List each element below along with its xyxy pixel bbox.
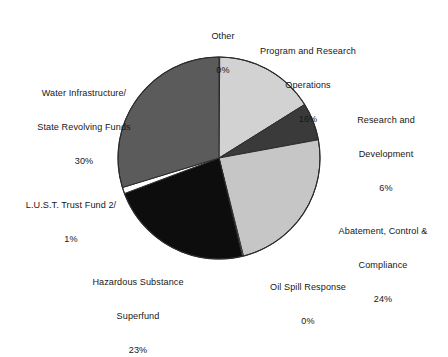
slice-label-oil-line1: Oil Spill Response [248, 282, 368, 293]
slice-label-water-line2: State Revolving Funds [10, 122, 158, 133]
slice-label-hazardous-substance-superfund: Hazardous Substance Superfund 23% [58, 255, 218, 357]
slice-label-oil-spill-response: Oil Spill Response 0% [248, 260, 368, 350]
slice-label-water-infrastructure-state-revolving-funds: Water Infrastructure/ State Revolving Fu… [10, 66, 158, 189]
slice-label-oil-percent: 0% [248, 316, 368, 327]
slice-label-lust-line1: L.U.S.T. Trust Fund 2/ [2, 200, 140, 211]
slice-label-water-percent: 30% [10, 156, 158, 167]
slice-label-pro-line2: Operations [243, 80, 373, 91]
slice-label-water-line1: Water Infrastructure/ [10, 88, 158, 99]
slice-label-haz-line2: Superfund [58, 311, 218, 322]
slice-label-lust-percent: 1% [2, 234, 140, 245]
slice-label-research-and-development: Research and Development 6% [330, 93, 442, 216]
slice-label-haz-line1: Hazardous Substance [58, 277, 218, 288]
slice-label-acc-line1: Abatement, Control & [318, 226, 448, 237]
slice-label-lust-trust-fund: L.U.S.T. Trust Fund 2/ 1% [2, 178, 140, 268]
slice-label-rnd-line2: Development [330, 149, 442, 160]
slice-label-pro-line1: Program and Research [243, 46, 373, 57]
slice-label-rnd-percent: 6% [330, 183, 442, 194]
slice-label-rnd-line1: Research and [330, 115, 442, 126]
slice-label-haz-percent: 23% [58, 345, 218, 356]
